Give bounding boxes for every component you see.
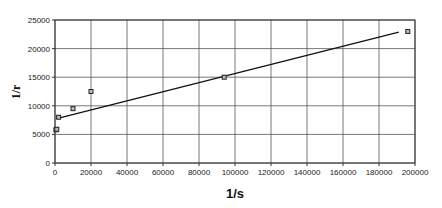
y-tick-label: 10000: [28, 102, 51, 111]
data-point-marker: [222, 75, 226, 79]
x-tick-label: 80000: [188, 168, 211, 177]
data-point-marker: [55, 127, 59, 131]
y-tick-label: 0: [46, 159, 51, 168]
x-tick-label: 200000: [402, 168, 429, 177]
data-point-marker: [89, 90, 93, 94]
y-tick-label: 20000: [28, 45, 51, 54]
x-tick-label: 0: [53, 168, 58, 177]
x-tick-label: 180000: [366, 168, 393, 177]
data-markers: [54, 29, 410, 131]
scatter-chart: 0500010000150002000025000 02000040000600…: [0, 0, 442, 208]
x-tick-label: 60000: [152, 168, 175, 177]
y-tick-label: 5000: [32, 130, 50, 139]
x-tick-label: 100000: [222, 168, 249, 177]
y-tick-label: 25000: [28, 16, 51, 25]
x-tick-label: 160000: [330, 168, 357, 177]
x-axis-title: 1/s: [226, 186, 244, 201]
data-point-marker: [71, 107, 75, 111]
x-tick-label: 20000: [80, 168, 103, 177]
data-point-marker: [406, 29, 410, 33]
x-tick-label: 40000: [116, 168, 139, 177]
y-tick-label: 15000: [28, 73, 51, 82]
x-axis-ticks: 0200004000060000800001000001200001400001…: [53, 163, 429, 177]
y-axis-title: 1/r: [9, 84, 23, 99]
y-axis-ticks: 0500010000150002000025000: [28, 16, 55, 168]
x-tick-label: 120000: [258, 168, 285, 177]
x-tick-label: 140000: [294, 168, 321, 177]
data-point-marker: [57, 115, 61, 119]
